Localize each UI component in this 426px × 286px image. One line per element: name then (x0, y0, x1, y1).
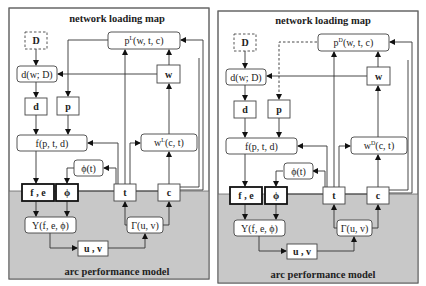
left-node-phi-t: ϕ(t) (74, 160, 103, 176)
svg-text:w: w (375, 71, 383, 82)
svg-text:ϕ: ϕ (273, 190, 279, 201)
svg-text:Υ(f, e, ϕ): Υ(f, e, ϕ) (241, 223, 278, 235)
right-node-w: w (367, 67, 390, 85)
diagram-canvas: network loading map arc performance mode… (0, 0, 426, 286)
right-node-p: p (268, 100, 290, 118)
svg-text:wD(c, t): wD(c, t) (364, 140, 394, 152)
right-node-phi-t: ϕ(t) (284, 163, 313, 179)
right-node-c: c (367, 187, 389, 204)
left-node-f-of-ptd: f(p, t, d) (17, 135, 87, 151)
svg-text:d(w; D): d(w; D) (230, 72, 261, 84)
svg-text:c: c (376, 190, 381, 201)
right-node-gamma: Γ(u, v) (337, 220, 372, 236)
right-node-d-of-w: d(w; D) (226, 69, 266, 85)
left-node-gamma: Γ(u, v) (127, 217, 163, 233)
right-panel: network loading map arc performance mode… (218, 11, 418, 283)
left-node-upsilon: Υ(f, e, ϕ) (25, 217, 76, 233)
right-node-fe: f , e (230, 187, 262, 204)
svg-text:d: d (33, 101, 39, 112)
left-node-wL: wL(c, t) (141, 134, 197, 151)
right-panel-footer: arc performance model (271, 269, 376, 280)
left-node-uv: u , v (78, 241, 108, 256)
svg-text:u , v: u , v (84, 243, 102, 254)
svg-text:f(p, t, d): f(p, t, d) (245, 141, 278, 153)
svg-text:u , v: u , v (293, 246, 311, 257)
left-node-fe: f , e (22, 184, 54, 201)
left-node-p: p (57, 97, 79, 115)
right-node-f-of-ptd: f(p, t, d) (226, 138, 297, 154)
svg-text:d(w; D): d(w; D) (21, 69, 52, 81)
svg-text:p: p (276, 104, 282, 115)
svg-text:ϕ(t): ϕ(t) (291, 166, 306, 178)
svg-text:w: w (165, 69, 173, 80)
svg-text:p: p (65, 101, 71, 112)
left-node-phi: ϕ (56, 184, 78, 201)
svg-text:f(p, t, d): f(p, t, d) (36, 138, 69, 150)
right-node-pD: pD(w, t, c) (318, 34, 389, 51)
left-node-t: t (114, 184, 136, 201)
right-node-phi: ϕ (265, 187, 287, 204)
svg-text:Γ(u, v): Γ(u, v) (131, 220, 158, 232)
svg-text:Γ(u, v): Γ(u, v) (341, 223, 368, 235)
left-node-pL: pL(w, t, c) (108, 32, 180, 49)
right-node-uv: u , v (287, 244, 317, 259)
left-panel-footer: arc performance model (65, 266, 170, 277)
svg-text:D: D (32, 35, 39, 46)
right-node-wD: wD(c, t) (351, 137, 407, 154)
svg-text:ϕ: ϕ (64, 187, 70, 198)
right-node-D: D (234, 34, 256, 51)
svg-text:c: c (167, 187, 172, 198)
left-panel: network loading map arc performance mode… (9, 8, 209, 279)
svg-text:wL(c, t): wL(c, t) (154, 137, 184, 149)
left-node-w: w (157, 65, 180, 83)
right-node-t: t (323, 187, 345, 204)
svg-text:f , e: f , e (30, 187, 46, 198)
right-node-upsilon: Υ(f, e, ϕ) (234, 220, 285, 236)
left-node-d-of-w: d(w; D) (17, 66, 57, 82)
left-node-c: c (158, 184, 180, 201)
right-node-d: d (234, 101, 256, 118)
left-panel-title: network loading map (69, 13, 165, 24)
svg-text:d: d (242, 104, 248, 115)
left-node-D: D (25, 32, 47, 49)
svg-text:ϕ(t): ϕ(t) (81, 163, 96, 175)
left-node-d: d (25, 98, 47, 115)
svg-text:D: D (241, 37, 248, 48)
svg-text:f , e: f , e (238, 190, 254, 201)
right-panel-title: network loading map (275, 15, 371, 26)
svg-text:Υ(f, e, ϕ): Υ(f, e, ϕ) (32, 220, 69, 232)
